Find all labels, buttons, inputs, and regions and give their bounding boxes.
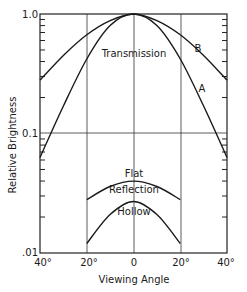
label-reflection: Reflection: [109, 184, 159, 195]
x-tick-neg40: 40°: [34, 257, 52, 268]
label-curve-b: B: [195, 43, 202, 54]
x-tick-0: 0: [131, 257, 137, 268]
y-tick-1.0: 1.0: [22, 9, 38, 20]
x-tick-pos20: 20°: [172, 257, 190, 268]
y-axis-title: Relative Brightness: [7, 97, 18, 194]
brightness-chart: Transmission B A Flat Reflection Hollow …: [0, 0, 247, 292]
label-hollow: Hollow: [117, 206, 151, 217]
y-minor-ticks-left: [40, 19, 45, 217]
label-flat: Flat: [125, 168, 144, 179]
y-minor-ticks-right: [222, 19, 227, 217]
y-tick-0.1: 0.1: [22, 128, 38, 139]
x-tick-pos40: 40°: [217, 257, 235, 268]
x-axis-title: Viewing Angle: [99, 274, 170, 285]
x-tick-neg20: 20°: [80, 257, 98, 268]
label-curve-a: A: [199, 83, 206, 94]
label-transmission: Transmission: [101, 48, 167, 59]
